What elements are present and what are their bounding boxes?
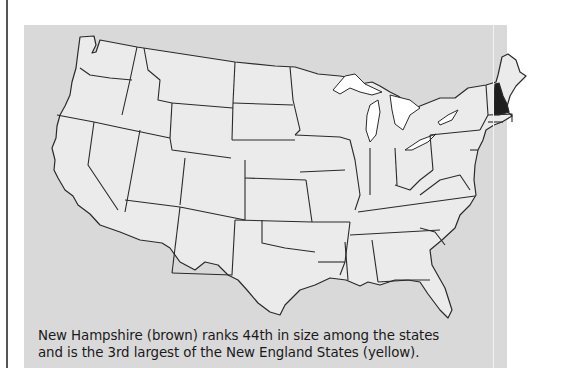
us-map: [0, 0, 578, 368]
map-caption: New Hampshire (brown) ranks 44th in size…: [38, 327, 518, 361]
scan-crease: [493, 25, 494, 368]
caption-line-2: and is the 3rd largest of the New Englan…: [38, 344, 518, 361]
us-outline: [52, 36, 526, 318]
caption-line-1: New Hampshire (brown) ranks 44th in size…: [38, 327, 518, 344]
